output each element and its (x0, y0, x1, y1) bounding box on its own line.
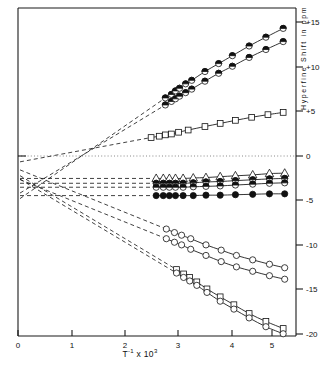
data-series-layer (20, 25, 289, 337)
point-square-series-positive-6 (202, 124, 208, 130)
point-cluster-series-filled-0 (153, 193, 159, 199)
point-upper-series-2-8-half (229, 63, 235, 66)
point-upper-series-2-4-half (183, 90, 189, 93)
point-cluster-series-half-b-1-half (160, 184, 166, 187)
point-cluster-series-half-a-10-half (266, 176, 272, 179)
extrapolation-upper-series-2 (20, 105, 165, 193)
point-lower-circle-series-2-4 (203, 252, 209, 258)
point-upper-series-2-10-half (263, 46, 269, 49)
point-lower-circle-series-2-6 (233, 264, 239, 270)
x-axis-label: T-1 x 103 (0, 348, 280, 359)
point-lower-bottom-series-0 (173, 270, 179, 276)
point-upper-series-2-6-half (202, 78, 208, 81)
point-upper-series-1-6-half (202, 68, 208, 71)
point-square-series-positive-10 (265, 112, 271, 118)
point-cluster-series-filled-4 (180, 193, 186, 199)
point-upper-series-1-9-half (246, 43, 252, 46)
point-square-series-positive-5 (185, 127, 191, 133)
point-upper-series-1-7-half (216, 61, 222, 64)
y-tick-label-neg20: -20 (306, 330, 318, 339)
point-square-series-positive-7 (217, 121, 223, 127)
point-square-series-positive-1 (156, 133, 162, 139)
point-cluster-series-half-b-10-half (266, 180, 272, 183)
y-tick-label-5: +5 (306, 107, 316, 116)
point-lower-bottom-series-2 (187, 278, 193, 284)
x-axis-label-mid: x 10 (137, 349, 154, 359)
point-cluster-series-half-a-4-half (180, 180, 186, 183)
point-cluster-series-filled-1 (160, 193, 166, 199)
point-lower-circle-series-2-3 (188, 246, 194, 252)
series-cluster-series-filled (20, 191, 288, 199)
point-lower-circle-series-1-3 (188, 236, 194, 242)
point-cluster-series-filled-5 (190, 193, 196, 199)
point-cluster-series-half-a-0-half (153, 180, 159, 183)
x-axis-ticks (18, 330, 272, 336)
point-square-series-positive-4 (176, 129, 182, 135)
point-lower-circle-series-2-7 (250, 268, 256, 274)
point-upper-series-2-0-half (162, 102, 168, 105)
point-cluster-series-filled-6 (203, 192, 209, 198)
point-cluster-series-half-b-9-half (250, 181, 256, 184)
point-cluster-series-half-a-9-half (250, 177, 256, 180)
x-axis-label-exponent2: 3 (154, 348, 158, 354)
point-square-series-positive-0 (148, 135, 154, 141)
hyperfine-shift-plot: 0 1 2 3 4 5 +15 +10 +5 0 -5 -10 -15 -20 (0, 0, 329, 370)
y-tick-label-neg5: -5 (306, 196, 314, 205)
point-square-series-positive-9 (249, 114, 255, 120)
point-square-series-positive-8 (233, 117, 239, 123)
point-cluster-series-half-a-1-half (160, 180, 166, 183)
point-cluster-series-filled-3 (172, 193, 178, 199)
point-cluster-series-half-a-11-half (282, 175, 288, 178)
point-cluster-series-half-a-7-half (217, 178, 223, 181)
point-upper-series-1-0-half (162, 95, 168, 98)
point-cluster-series-half-b-6-half (203, 183, 209, 186)
point-cluster-series-half-b-8-half (232, 182, 238, 185)
series-square-series-positive (20, 110, 286, 162)
point-cluster-series-half-b-4-half (180, 184, 186, 187)
point-lower-circle-series-1-9 (282, 265, 288, 271)
y-tick-label-neg15: -15 (306, 285, 318, 294)
y-tick-label-10: +10 (306, 63, 320, 72)
point-cluster-series-filled-7 (217, 192, 223, 198)
series-lower-square-series (20, 176, 286, 332)
point-cluster-series-half-b-5-half (190, 184, 196, 187)
point-cluster-series-half-b-11-half (282, 180, 288, 183)
point-lower-bottom-series-8 (263, 324, 269, 330)
point-upper-series-2-7-half (216, 70, 222, 73)
point-lower-circle-series-1-1 (171, 229, 177, 235)
point-cluster-series-half-a-2-half (166, 180, 172, 183)
point-cluster-series-half-b-7-half (217, 183, 223, 186)
point-square-series-positive-2 (162, 132, 168, 138)
point-lower-circle-series-2-9 (282, 276, 288, 282)
point-lower-bottom-series-1 (181, 274, 187, 280)
extrapolation-lower-square-series (20, 176, 177, 270)
point-lower-circle-series-2-8 (266, 273, 272, 279)
point-upper-series-1-3-half (176, 85, 182, 88)
point-square-series-positive-3 (169, 131, 175, 137)
point-lower-bottom-series-9 (280, 331, 286, 337)
point-upper-series-2-9-half (246, 54, 252, 57)
point-lower-circle-series-1-6 (233, 252, 239, 258)
point-upper-series-1-4-half (183, 81, 189, 84)
point-cluster-series-half-a-6-half (203, 179, 209, 182)
point-cluster-series-half-b-0-half (153, 184, 159, 187)
point-cluster-series-filled-8 (232, 192, 238, 198)
point-cluster-series-filled-11 (282, 191, 288, 197)
extrapolation-lower-circle-series-2 (20, 180, 166, 239)
y-tick-label-15: +15 (306, 18, 320, 27)
point-upper-series-2-11-half (280, 38, 286, 41)
point-cluster-series-filled-9 (250, 191, 256, 197)
point-lower-circle-series-1-7 (250, 257, 256, 263)
plot-frame (18, 8, 296, 336)
point-lower-circle-series-1-2 (178, 232, 184, 238)
point-upper-series-1-5-half (189, 77, 195, 80)
point-lower-circle-series-2-0 (163, 236, 169, 242)
point-upper-series-1-8-half (229, 53, 235, 56)
point-cluster-series-half-a-5-half (190, 180, 196, 183)
y-tick-label-0: 0 (306, 152, 311, 161)
extrapolation-lower-bottom-series (20, 179, 177, 273)
point-lower-circle-series-2-1 (171, 239, 177, 245)
point-cluster-series-half-a-3-half (172, 180, 178, 183)
point-square-series-positive-11 (280, 110, 286, 116)
point-upper-series-1-11-half (280, 25, 286, 28)
